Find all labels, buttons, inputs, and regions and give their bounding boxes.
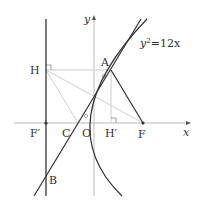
label-C: C [62, 127, 70, 140]
angle-marker-C [84, 114, 87, 117]
right-angle-H-prime [111, 118, 116, 123]
point-F-prime [44, 121, 47, 124]
segment-HC [46, 70, 78, 123]
label-y-axis: y [83, 13, 91, 26]
equation-label: y2=12x [139, 37, 181, 50]
segment-AF [111, 70, 143, 123]
tangent-line [34, 19, 141, 196]
point-F [141, 121, 144, 124]
x-axis [14, 121, 191, 125]
parabola-diagram: H A F′ C O H′ F B x y y2=12x [0, 0, 200, 208]
label-F-prime: F′ [30, 127, 41, 140]
parabola-curve [90, 19, 147, 196]
label-A: A [100, 56, 110, 69]
right-angle-H [46, 65, 51, 70]
label-O: O [82, 127, 91, 140]
label-F: F [138, 128, 146, 141]
label-B: B [49, 174, 57, 187]
label-x-axis: x [183, 126, 190, 139]
label-H: H [30, 64, 40, 77]
label-H-prime: H′ [105, 127, 118, 140]
